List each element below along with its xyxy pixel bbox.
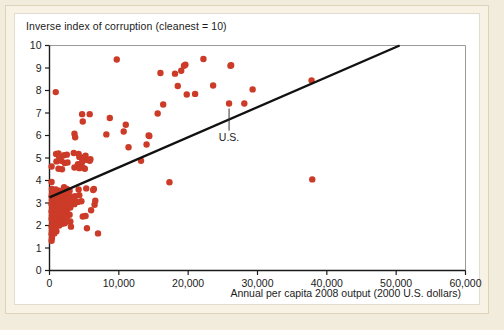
data-point xyxy=(192,91,198,97)
x-tick-label: 10,000 xyxy=(103,277,135,289)
y-tick-label: 3 xyxy=(36,197,42,209)
data-point xyxy=(160,101,166,107)
data-point xyxy=(107,115,113,121)
data-point xyxy=(143,141,149,147)
data-point xyxy=(48,163,54,169)
plot-axis-dark xyxy=(50,46,466,271)
y-tick-label: 7 xyxy=(36,107,42,119)
data-point xyxy=(157,70,163,76)
x-tick-label: 20,000 xyxy=(172,277,204,289)
data-point xyxy=(241,100,247,106)
data-point xyxy=(103,131,109,137)
y-tick-label: 5 xyxy=(36,152,42,164)
data-point xyxy=(154,110,160,116)
data-point xyxy=(114,56,120,62)
data-points xyxy=(48,56,315,244)
annotation-label: U.S. xyxy=(219,131,239,143)
data-point xyxy=(309,176,315,182)
data-point xyxy=(210,82,216,88)
y-tick-label: 9 xyxy=(36,62,42,74)
data-point xyxy=(228,62,234,68)
trend-line xyxy=(50,46,400,198)
data-point xyxy=(59,166,65,172)
data-point xyxy=(64,159,70,165)
data-point xyxy=(182,61,188,67)
figure-container: Inverse index of corruption (cleanest = … xyxy=(0,0,504,330)
data-point xyxy=(66,212,72,218)
plot-frame-light xyxy=(50,46,466,271)
data-point xyxy=(76,192,82,198)
data-point xyxy=(120,128,126,134)
data-point xyxy=(95,230,101,236)
y-tick-label: 6 xyxy=(36,129,42,141)
regression-line xyxy=(50,46,400,198)
plot-frame xyxy=(50,46,466,271)
data-point xyxy=(123,122,129,128)
data-point xyxy=(72,134,78,140)
x-axis-title: Annual per capita 2008 output (2000 U.S.… xyxy=(230,287,461,299)
data-point xyxy=(200,56,206,62)
data-point xyxy=(184,91,190,97)
y-tick-label: 2 xyxy=(36,219,42,231)
data-point xyxy=(53,228,59,234)
data-point xyxy=(249,86,255,92)
y-axis-tick-labels: 012345678910 xyxy=(30,39,42,276)
data-point xyxy=(82,166,88,172)
x-tick-label: 0 xyxy=(47,277,53,289)
data-point xyxy=(166,179,172,185)
data-point xyxy=(226,100,232,106)
data-point xyxy=(92,198,98,204)
data-point xyxy=(87,111,93,117)
data-point xyxy=(78,198,84,204)
data-point xyxy=(125,144,131,150)
data-point xyxy=(68,223,74,229)
data-point xyxy=(175,83,181,89)
data-point xyxy=(64,151,70,157)
data-point xyxy=(84,225,90,231)
y-tick-label: 0 xyxy=(36,264,42,276)
data-point xyxy=(48,179,54,185)
y-tick-label: 4 xyxy=(36,174,42,186)
data-point xyxy=(83,185,89,191)
data-point xyxy=(146,133,152,139)
axis-ticks xyxy=(45,46,466,276)
data-point xyxy=(172,70,178,76)
data-point xyxy=(79,111,85,117)
y-tick-label: 8 xyxy=(36,84,42,96)
us-annotation: U.S. xyxy=(219,109,239,143)
data-point xyxy=(80,118,86,124)
scatter-plot: 012345678910 010,00020,00030,00040,00050… xyxy=(0,0,504,330)
data-point xyxy=(87,158,93,164)
data-point xyxy=(82,213,88,219)
data-point xyxy=(75,186,81,192)
y-tick-label: 10 xyxy=(30,39,42,51)
data-point xyxy=(48,238,54,244)
y-tick-label: 1 xyxy=(36,242,42,254)
data-point xyxy=(91,186,97,192)
data-point xyxy=(53,89,59,95)
data-point xyxy=(88,207,94,213)
